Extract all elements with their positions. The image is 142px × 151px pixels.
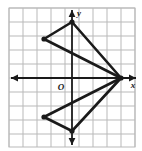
polygon-vertex-top-vertex	[69, 19, 74, 24]
coordinate-plane-figure: x y O	[0, 0, 142, 151]
polygon-vertex-right-vertex	[118, 75, 123, 80]
polygon-vertex-bottom-vertex	[69, 128, 74, 133]
x-axis-label: x	[130, 80, 136, 90]
polygon-vertex-lower-left-vertex	[41, 114, 46, 119]
coordinate-plane-svg: x y O	[0, 0, 142, 151]
origin-label: O	[58, 82, 65, 92]
polygon-vertex-upper-left-vertex	[41, 36, 46, 41]
